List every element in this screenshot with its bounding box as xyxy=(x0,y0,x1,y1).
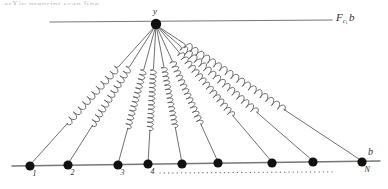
ellipsis-dot xyxy=(310,171,311,172)
force-symbol: F xyxy=(336,11,343,23)
ellipsis-dot xyxy=(232,172,233,173)
spring-link-6 xyxy=(156,25,218,162)
ellipsis-dot xyxy=(327,171,328,172)
baseline-node-6 xyxy=(213,158,222,167)
baseline-rod-label: b xyxy=(368,146,373,157)
ellipsis-dot xyxy=(228,172,229,173)
ellipsis-dot xyxy=(159,172,160,173)
baseline-node-label-9: N xyxy=(365,165,370,174)
ellipsis-dot xyxy=(288,171,289,172)
ellipsis-dot xyxy=(267,172,268,173)
ellipsis-dot xyxy=(314,171,315,172)
ellipsis-dot xyxy=(172,172,173,173)
ellipsis-dot xyxy=(207,172,208,173)
spring-link-4 xyxy=(147,25,156,163)
ellipsis-dot xyxy=(301,171,302,172)
ellipsis-dot xyxy=(331,171,332,172)
apex-rod-line xyxy=(50,20,332,22)
ellipsis-dot xyxy=(181,172,182,173)
ellipsis-dot xyxy=(198,172,199,173)
ellipsis-dot xyxy=(284,172,285,173)
ellipsis-dot xyxy=(280,172,281,173)
springs-group xyxy=(30,25,362,165)
ellipsis-dot xyxy=(275,172,276,173)
spring-link-8 xyxy=(156,25,313,161)
ellipsis-dot xyxy=(293,171,294,172)
ellipsis-dot xyxy=(237,172,238,173)
spring-link-5 xyxy=(156,25,182,163)
baseline-ellipsis-group xyxy=(159,171,332,173)
ellipsis-dot xyxy=(220,172,221,173)
ellipsis-dot xyxy=(202,172,203,173)
ellipsis-dot xyxy=(185,172,186,173)
apex-node-label: y xyxy=(153,6,157,16)
baseline-node-label-1: 1 xyxy=(33,169,37,178)
ellipsis-dot xyxy=(189,172,190,173)
figure-canvas: arXiv preprint scan line y Fc1b b 1234N xyxy=(0,0,388,189)
apex-rod-group xyxy=(50,20,332,22)
baseline-node-7 xyxy=(267,158,276,167)
baseline-node-5 xyxy=(177,159,186,168)
baseline-node-label-4: 4 xyxy=(151,167,155,176)
baseline-node-label-3: 3 xyxy=(121,168,125,177)
ellipsis-dot xyxy=(241,172,242,173)
ellipsis-dot xyxy=(271,172,272,173)
force-operand: b xyxy=(349,11,355,23)
ellipsis-dot xyxy=(258,172,259,173)
ellipsis-dot xyxy=(224,172,225,173)
ellipsis-dot xyxy=(215,172,216,173)
ellipsis-dot xyxy=(250,172,251,173)
force-label: Fc1b xyxy=(336,11,355,25)
ellipsis-dot xyxy=(297,171,298,172)
ellipsis-dot xyxy=(306,171,307,172)
ellipsis-dot xyxy=(194,172,195,173)
force-subscript: c1 xyxy=(343,17,348,24)
apex-node-group xyxy=(151,19,161,29)
ellipsis-dot xyxy=(323,171,324,172)
force-subsubscript: 1 xyxy=(346,21,348,25)
spring-network-diagram xyxy=(0,0,388,189)
ellipsis-dot xyxy=(168,172,169,173)
apex-node xyxy=(151,19,161,29)
spring-link-2 xyxy=(68,25,156,164)
ellipsis-dot xyxy=(263,172,264,173)
ellipsis-dot xyxy=(211,172,212,173)
ellipsis-dot xyxy=(177,172,178,173)
ellipsis-dot xyxy=(245,172,246,173)
ellipsis-dot xyxy=(318,171,319,172)
baseline-node-8 xyxy=(308,157,317,166)
ellipsis-dot xyxy=(254,172,255,173)
ellipsis-dot xyxy=(164,172,165,173)
spring-link-1 xyxy=(30,25,156,165)
baseline-node-label-2: 2 xyxy=(71,168,75,177)
